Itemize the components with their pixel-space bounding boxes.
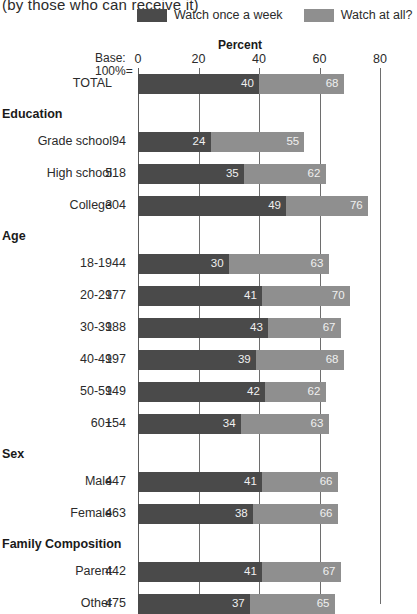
bar-value-once-a-week: 41: [244, 475, 257, 488]
chart-row: TOTAL4068: [0, 74, 402, 94]
row-base-value: 197: [92, 352, 126, 366]
chart-row: College3044976: [0, 196, 402, 216]
row-base-value: 518: [92, 166, 126, 180]
bar-value-at-all: 63: [311, 257, 324, 270]
legend-swatch-dark: [137, 9, 167, 22]
bar-value-at-all: 68: [326, 77, 339, 90]
legend-swatch-light: [304, 9, 334, 22]
chart-legend: Watch once a week Watch at all?: [137, 8, 417, 22]
group-heading-row: Family Composition: [0, 536, 402, 556]
chart-row: Parent4424167: [0, 562, 402, 582]
bar-watch-once-a-week: [138, 318, 268, 338]
chart-row: High school5183562: [0, 164, 402, 184]
chart-row: Grade school942455: [0, 132, 402, 152]
bar-value-once-a-week: 42: [247, 385, 260, 398]
group-heading-label: Education: [2, 107, 62, 121]
bar-value-once-a-week: 49: [268, 199, 281, 212]
chart-row: 50-591494262: [0, 382, 402, 402]
row-base-value: 149: [92, 384, 126, 398]
chart-row: 18-19443063: [0, 254, 402, 274]
bar-value-at-all: 67: [323, 565, 336, 578]
bar-value-once-a-week: 38: [235, 507, 248, 520]
bar-watch-once-a-week: [138, 196, 286, 216]
bar-value-once-a-week: 40: [241, 77, 254, 90]
bar-value-at-all: 62: [308, 385, 321, 398]
bar-value-at-all: 62: [308, 167, 321, 180]
legend-label-once-a-week: Watch once a week: [174, 8, 283, 22]
legend-item-once-a-week: Watch once a week: [137, 8, 283, 22]
chart-row: 30-391884367: [0, 318, 402, 338]
axis-tick-20: 20: [192, 52, 206, 66]
axis-tick-0: 0: [135, 52, 142, 66]
bar-value-at-all: 65: [317, 597, 330, 610]
chart-row: 40-491973968: [0, 350, 402, 370]
bar-watch-once-a-week: [138, 382, 265, 402]
legend-item-at-all: Watch at all?: [304, 8, 413, 22]
group-heading-row: Education: [0, 106, 402, 126]
bar-value-at-all: 67: [323, 321, 336, 334]
bar-value-once-a-week: 30: [211, 257, 224, 270]
row-base-value: 447: [92, 474, 126, 488]
row-base-value: 475: [92, 596, 126, 610]
row-base-value: 304: [92, 198, 126, 212]
legend-label-at-all: Watch at all?: [341, 8, 413, 22]
row-base-value: 44: [92, 256, 126, 270]
group-heading-label: Sex: [2, 447, 24, 461]
row-base-value: 188: [92, 320, 126, 334]
bar-value-at-all: 76: [350, 199, 363, 212]
bar-value-once-a-week: 37: [232, 597, 245, 610]
row-base-value: 154: [92, 416, 126, 430]
bar-value-at-all: 63: [311, 417, 324, 430]
row-base-value: 463: [92, 506, 126, 520]
chart-row: Male4474166: [0, 472, 402, 492]
bar-value-at-all: 68: [326, 353, 339, 366]
axis-tick-80: 80: [373, 52, 387, 66]
axis-title-percent: Percent: [218, 38, 262, 52]
row-label: TOTAL: [0, 76, 112, 90]
chart-row: Female4633866: [0, 504, 402, 524]
chart-row: Other4753765: [0, 594, 402, 614]
base-label-line1: Base:: [95, 52, 133, 65]
group-heading-row: Sex: [0, 446, 402, 466]
group-heading-label: Age: [2, 229, 26, 243]
bar-value-once-a-week: 43: [250, 321, 263, 334]
row-base-value: 442: [92, 564, 126, 578]
bar-value-once-a-week: 39: [238, 353, 251, 366]
row-base-value: 177: [92, 288, 126, 302]
bar-value-once-a-week: 41: [244, 565, 257, 578]
group-heading-label: Family Composition: [2, 537, 121, 551]
axis-tick-60: 60: [313, 52, 327, 66]
axis-tick-40: 40: [252, 52, 266, 66]
bar-value-once-a-week: 41: [244, 289, 257, 302]
bar-value-at-all: 66: [320, 475, 333, 488]
chart-row: 20-291774170: [0, 286, 402, 306]
bar-value-once-a-week: 34: [223, 417, 236, 430]
bar-value-once-a-week: 35: [226, 167, 239, 180]
chart-row: 60+1543463: [0, 414, 402, 434]
bar-value-once-a-week: 24: [193, 135, 206, 148]
bar-value-at-all: 66: [320, 507, 333, 520]
group-heading-row: Age: [0, 228, 402, 248]
bar-value-at-all: 55: [286, 135, 299, 148]
row-base-value: 94: [92, 134, 126, 148]
bar-value-at-all: 70: [332, 289, 345, 302]
